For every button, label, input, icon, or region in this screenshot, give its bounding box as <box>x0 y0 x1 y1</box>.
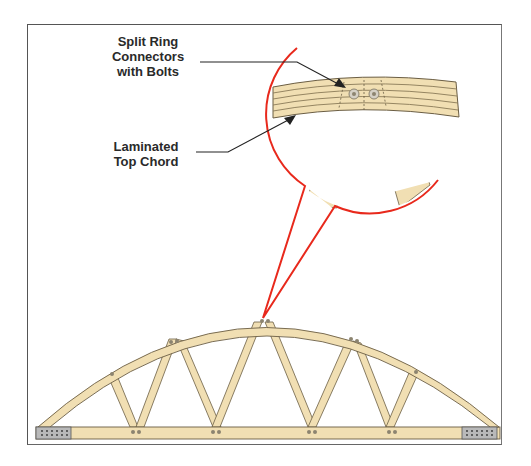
magnified-detail <box>263 32 459 318</box>
top-chord-arc <box>38 328 499 428</box>
label-line: Top Chord <box>104 154 188 169</box>
heel-plate-left <box>36 427 71 439</box>
truss-illustration <box>0 0 531 466</box>
label-line: Split Ring <box>106 34 190 49</box>
label-line: with Bolts <box>106 64 190 79</box>
label-split-ring-connectors: Split Ring Connectors with Bolts <box>106 34 190 79</box>
bowstring-truss <box>36 319 500 439</box>
truss-diagram: Split Ring Connectors with Bolts Laminat… <box>0 0 531 466</box>
label-laminated-top-chord: Laminated Top Chord <box>104 139 188 169</box>
detail-web-right <box>372 106 430 208</box>
label-line: Laminated <box>104 139 188 154</box>
detail-laminated-chord <box>273 77 459 118</box>
web-members <box>108 322 417 427</box>
label-line: Connectors <box>106 49 190 64</box>
heel-plate-right <box>462 427 497 439</box>
detail-web-left <box>305 108 368 208</box>
bottom-chord <box>36 427 500 439</box>
